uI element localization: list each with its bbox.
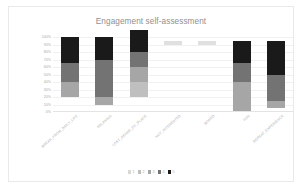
y-tick-label: 20% xyxy=(44,95,51,99)
y-tick-label: 0% xyxy=(46,110,51,114)
legend-swatch xyxy=(128,170,132,174)
bar-stack[interactable] xyxy=(267,37,285,112)
chart-title: Engagement self-assessment xyxy=(9,17,293,26)
legend-swatch xyxy=(138,170,142,174)
x-tick-label: FUN xyxy=(242,114,250,122)
legend-swatch xyxy=(168,170,172,174)
legend-item[interactable]: 5 xyxy=(168,170,175,174)
legend-label: 5 xyxy=(173,170,175,174)
y-tick-label: 100% xyxy=(42,35,51,39)
chart-legend: 12345 xyxy=(9,170,293,174)
x-tick-label: RELAXING xyxy=(97,114,113,129)
bar-stack[interactable] xyxy=(95,37,113,112)
bar-segment[interactable] xyxy=(233,82,251,112)
y-tick-label: 80% xyxy=(44,50,51,54)
legend-label: 4 xyxy=(163,170,165,174)
bar-stack[interactable] xyxy=(61,37,79,112)
y-tick-label: 50% xyxy=(44,73,51,77)
bar-segment[interactable] xyxy=(130,52,148,67)
bar-segment[interactable] xyxy=(61,63,79,82)
y-tick-label: 90% xyxy=(44,43,51,47)
legend-item[interactable]: 3 xyxy=(148,170,155,174)
y-tick-label: 30% xyxy=(44,88,51,92)
bar-stack[interactable] xyxy=(130,37,148,112)
bar-segment[interactable] xyxy=(267,75,285,101)
bar-segment[interactable] xyxy=(130,67,148,82)
legend-swatch xyxy=(148,170,152,174)
bar-segment[interactable] xyxy=(164,41,182,45)
y-axis-labels: 100%90%80%70%60%50%40%30%20%10%0% xyxy=(27,37,51,112)
legend-item[interactable]: 1 xyxy=(128,170,135,174)
bar-segment[interactable] xyxy=(130,30,148,53)
bar-segment[interactable] xyxy=(95,97,113,105)
bar-segment[interactable] xyxy=(61,82,79,97)
y-tick-label: 10% xyxy=(44,103,51,107)
legend-item[interactable]: 4 xyxy=(158,170,165,174)
bar-segment[interactable] xyxy=(95,37,113,60)
bar-stack[interactable] xyxy=(164,37,182,112)
plot-area xyxy=(53,37,293,112)
bar-stack[interactable] xyxy=(233,37,251,112)
bar-stack[interactable] xyxy=(198,37,216,112)
x-tick-label: NOT_INTERESTED xyxy=(155,114,182,139)
y-tick-label: 40% xyxy=(44,80,51,84)
x-tick-label: LOST_SENSE_OF_PLACE xyxy=(111,114,147,147)
bar-segment[interactable] xyxy=(233,41,251,64)
bar-segment[interactable] xyxy=(95,60,113,98)
x-tick-label: BORED xyxy=(204,114,216,126)
y-tick-label: 60% xyxy=(44,65,51,69)
legend-label: 3 xyxy=(153,170,155,174)
x-tick-label: REPEAT_EXPERIENCE xyxy=(252,114,284,144)
bar-segment[interactable] xyxy=(130,82,148,97)
bar-segment[interactable] xyxy=(61,37,79,63)
legend-label: 2 xyxy=(143,170,145,174)
bar-segment[interactable] xyxy=(233,63,251,82)
bar-segment[interactable] xyxy=(267,101,285,109)
bar-segment[interactable] xyxy=(267,41,285,75)
x-axis-line xyxy=(53,111,293,112)
y-tick-label: 70% xyxy=(44,58,51,62)
legend-item[interactable]: 2 xyxy=(138,170,145,174)
x-tick-label: BREAK_FROM_DAILY_LIFE xyxy=(41,114,79,149)
x-axis-labels: BREAK_FROM_DAILY_LIFERELAXINGLOST_SENSE_… xyxy=(53,114,293,166)
legend-label: 1 xyxy=(133,170,135,174)
legend-swatch xyxy=(158,170,162,174)
chart-frame: Engagement self-assessment 100%90%80%70%… xyxy=(8,6,294,182)
bar-segment[interactable] xyxy=(198,41,216,45)
